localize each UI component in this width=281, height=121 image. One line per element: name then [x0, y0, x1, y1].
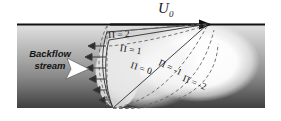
figure-root: U0 Backflow stream Π = 2 Π = 1 Π = 0 Π =…: [0, 0, 281, 121]
boundary-layer-diagram: [0, 0, 281, 121]
